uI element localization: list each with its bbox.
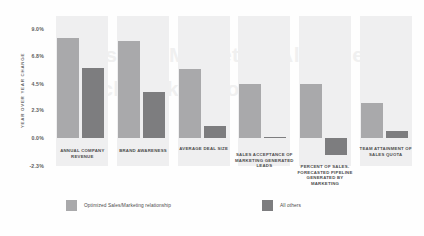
y-tick-label: 9.0%: [31, 26, 44, 32]
category-label-cell: BRAND AWARENESS: [113, 16, 174, 166]
category-label-cell: PERCENT OF SALES-FORECASTED PIPELINE GEN…: [295, 16, 356, 166]
y-tick-label: 0.0%: [31, 135, 44, 141]
category-labels: ANNUAL COMPANY REVENUEBRAND AWARENESSAVE…: [52, 16, 416, 166]
category-label: AVERAGE DEAL SIZE: [173, 146, 234, 152]
y-axis-ticks: 9.0%6.8%4.5%2.3%0.0%-2.3%: [0, 16, 48, 166]
y-tick-label: 2.3%: [31, 107, 44, 113]
legend-label-optimized: Optimized Sales/Marketing relationship: [84, 203, 171, 208]
legend-swatch-icon: [262, 200, 273, 211]
y-tick-label: 6.8%: [31, 53, 44, 59]
category-label: TEAM ATTAINMENT OF SALES QUOTA: [355, 146, 416, 157]
legend-swatch-icon: [66, 200, 77, 211]
category-label: ANNUAL COMPANY REVENUE: [52, 148, 113, 159]
legend-label-all-others: All others: [280, 203, 301, 208]
chart-legend: Optimized Sales/Marketing relationship A…: [66, 200, 366, 218]
chart-container: Sales and Marketing Alignment Benchmark …: [0, 0, 424, 236]
category-label: BRAND AWARENESS: [113, 148, 174, 154]
category-label-cell: ANNUAL COMPANY REVENUE: [52, 16, 113, 166]
category-label: PERCENT OF SALES-FORECASTED PIPELINE GEN…: [295, 164, 356, 186]
category-label-cell: SALES ACCEPTANCE OF MARKETING GENERATED …: [234, 16, 295, 166]
category-label-cell: TEAM ATTAINMENT OF SALES QUOTA: [355, 16, 416, 166]
legend-item-optimized: Optimized Sales/Marketing relationship: [66, 200, 262, 211]
category-label: SALES ACCEPTANCE OF MARKETING GENERATED …: [234, 152, 295, 169]
y-tick-label: 4.5%: [31, 81, 44, 87]
category-label-cell: AVERAGE DEAL SIZE: [173, 16, 234, 166]
y-tick-label: -2.3%: [29, 163, 44, 169]
legend-item-all-others: All others: [262, 200, 301, 211]
